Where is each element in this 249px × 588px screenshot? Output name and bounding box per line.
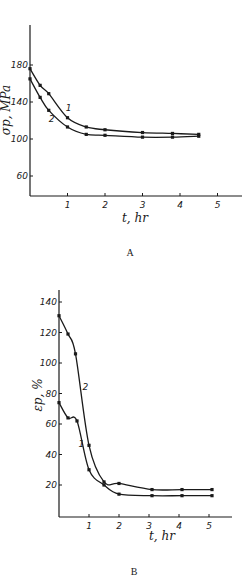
data-point — [57, 401, 60, 404]
y-tick-label: 120 — [40, 328, 57, 338]
data-point — [117, 482, 120, 485]
data-point — [150, 494, 153, 497]
y-tick-label: 60 — [46, 419, 58, 429]
data-point — [66, 332, 69, 335]
chart-a-y-axis-label: σp, MPa — [0, 85, 13, 135]
data-point — [28, 77, 31, 80]
data-point — [171, 136, 174, 139]
data-point — [87, 468, 90, 471]
data-point — [66, 416, 69, 419]
y-tick-label: 20 — [46, 480, 58, 490]
curve-label: 1 — [79, 439, 85, 449]
chart-b: 1234520406080100120140 12 t, hr εp, % B — [31, 290, 232, 577]
curve-label: 1 — [66, 103, 72, 113]
x-tick-label: 5 — [215, 200, 221, 210]
data-point — [28, 67, 31, 70]
y-tick-label: 60 — [17, 171, 29, 181]
data-point — [141, 136, 144, 139]
y-tick-label: 140 — [40, 297, 57, 307]
y-tick-label: 40 — [46, 450, 58, 460]
chart-a-x-axis-label: t, hr — [122, 211, 149, 225]
chart-a-caption: A — [126, 247, 134, 258]
data-point — [103, 128, 106, 131]
x-tick-label: 5 — [206, 521, 212, 531]
x-tick-label: 3 — [140, 200, 146, 210]
y-tick-label: 100 — [11, 134, 28, 144]
x-tick-label: 2 — [102, 200, 108, 210]
data-point — [39, 96, 42, 99]
data-point — [57, 314, 60, 317]
series-2-line — [59, 316, 212, 490]
chart-a: 1234560100140180 12 t, hr σp, MPa A — [0, 25, 242, 258]
data-point — [74, 352, 77, 355]
series-1-line — [59, 403, 212, 496]
series-1-line — [30, 69, 199, 135]
x-tick-label: 4 — [177, 200, 183, 210]
chart-b-caption: B — [131, 566, 138, 577]
data-point — [210, 488, 213, 491]
data-point — [75, 419, 78, 422]
x-tick-label: 2 — [116, 521, 122, 531]
data-point — [117, 493, 120, 496]
y-tick-label: 140 — [11, 97, 28, 107]
data-point — [66, 125, 69, 128]
data-point — [39, 84, 42, 87]
x-tick-label: 1 — [86, 521, 92, 531]
curve-label: 2 — [49, 114, 55, 124]
chart-b-x-axis-label: t, hr — [149, 529, 176, 543]
data-point — [47, 109, 50, 112]
data-point — [150, 488, 153, 491]
curve-label: 2 — [82, 382, 88, 392]
chart-a-curves: 12 — [28, 67, 200, 139]
data-point — [85, 133, 88, 136]
data-point — [210, 494, 213, 497]
chart-b-y-axis-label: εp, % — [31, 378, 45, 411]
y-tick-label: 180 — [11, 60, 28, 70]
chart-b-axes — [59, 290, 232, 517]
data-point — [103, 134, 106, 137]
data-point — [47, 92, 50, 95]
data-point — [197, 135, 200, 138]
x-tick-label: 1 — [65, 200, 71, 210]
data-point — [87, 444, 90, 447]
data-point — [180, 488, 183, 491]
data-point — [102, 480, 105, 483]
chart-a-tick-labels: 1234560100140180 — [11, 60, 221, 210]
chart-b-curves: 12 — [57, 314, 213, 497]
y-tick-label: 80 — [46, 389, 58, 399]
data-point — [141, 131, 144, 134]
series-2-line — [30, 79, 199, 137]
figure: 1234560100140180 12 t, hr σp, MPa A 1234… — [0, 0, 249, 588]
data-point — [171, 132, 174, 135]
data-point — [180, 494, 183, 497]
x-tick-label: 4 — [176, 521, 182, 531]
data-point — [85, 125, 88, 128]
y-tick-label: 100 — [40, 358, 57, 368]
data-point — [66, 116, 69, 119]
